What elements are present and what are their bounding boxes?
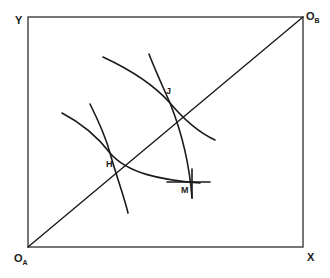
y-axis-label: Y [15,15,22,26]
indifference-curve-a-high [103,57,215,140]
origin-a-letter: O [14,252,23,264]
point-label-j: J [166,87,171,96]
origin-b-subscript: B [315,17,320,24]
origin-b-label: OB [306,11,320,24]
origin-a-label: OA [14,253,28,266]
origin-b-letter: O [306,10,315,22]
diagram-canvas [0,0,330,278]
x-axis-label: X [307,252,314,263]
point-label-m: M [181,186,189,195]
edgeworth-box-figure: Y X OA OB H J M [0,0,330,278]
origin-a-subscript: A [23,259,28,266]
point-label-h: H [106,160,113,169]
contract-curve [28,17,303,247]
indifference-curve-a-low [62,113,200,183]
